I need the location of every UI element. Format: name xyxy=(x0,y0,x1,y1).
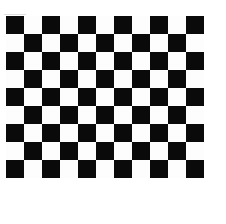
checker-cell-r4-c4 xyxy=(78,88,96,106)
checker-cell-r2-c2 xyxy=(42,52,60,70)
checker-cell-r3-c2 xyxy=(42,70,60,88)
checker-cell-r5-c1 xyxy=(24,106,42,124)
checker-cell-r0-c2 xyxy=(42,16,60,34)
checker-cell-r6-c7 xyxy=(132,124,150,142)
checker-cell-r2-c4 xyxy=(78,52,96,70)
checker-cell-r3-c7 xyxy=(132,70,150,88)
checker-cell-r6-c1 xyxy=(24,124,42,142)
checker-cell-r0-c6 xyxy=(114,16,132,34)
checker-cell-r8-c5 xyxy=(96,160,114,178)
checker-cell-r1-c9 xyxy=(168,34,186,52)
checker-cell-r7-c7 xyxy=(132,142,150,160)
checker-cell-r2-c10 xyxy=(186,52,204,70)
checker-cell-r4-c0 xyxy=(6,88,24,106)
checker-cell-r0-c1 xyxy=(24,16,42,34)
checker-cell-r5-c3 xyxy=(60,106,78,124)
checker-cell-r3-c10 xyxy=(186,70,204,88)
checker-cell-r2-c3 xyxy=(60,52,78,70)
checker-cell-r7-c8 xyxy=(150,142,168,160)
checker-cell-r2-c8 xyxy=(150,52,168,70)
checker-cell-r0-c3 xyxy=(60,16,78,34)
checker-cell-r3-c5 xyxy=(96,70,114,88)
checker-cell-r8-c1 xyxy=(24,160,42,178)
checker-cell-r4-c1 xyxy=(24,88,42,106)
checker-cell-r6-c4 xyxy=(78,124,96,142)
checker-cell-r5-c4 xyxy=(78,106,96,124)
checker-cell-r4-c6 xyxy=(114,88,132,106)
checker-cell-r6-c2 xyxy=(42,124,60,142)
checker-cell-r5-c7 xyxy=(132,106,150,124)
checker-cell-r8-c9 xyxy=(168,160,186,178)
checker-cell-r1-c8 xyxy=(150,34,168,52)
checker-cell-r5-c0 xyxy=(6,106,24,124)
checker-cell-r6-c8 xyxy=(150,124,168,142)
caption-clip-region xyxy=(0,214,226,224)
checker-cell-r2-c0 xyxy=(6,52,24,70)
checker-cell-r4-c8 xyxy=(150,88,168,106)
checker-cell-r5-c8 xyxy=(150,106,168,124)
checker-cell-r4-c2 xyxy=(42,88,60,106)
checker-cell-r6-c6 xyxy=(114,124,132,142)
checker-cell-r2-c7 xyxy=(132,52,150,70)
checker-cell-r5-c2 xyxy=(42,106,60,124)
checker-cell-r8-c10 xyxy=(186,160,204,178)
checker-cell-r1-c1 xyxy=(24,34,42,52)
checker-cell-r3-c1 xyxy=(24,70,42,88)
checker-cell-r1-c2 xyxy=(42,34,60,52)
checker-cell-r2-c6 xyxy=(114,52,132,70)
figure-root xyxy=(0,0,226,224)
checker-cell-r7-c9 xyxy=(168,142,186,160)
checker-cell-r4-c5 xyxy=(96,88,114,106)
checker-cell-r0-c10 xyxy=(186,16,204,34)
checker-cell-r7-c1 xyxy=(24,142,42,160)
checker-cell-r0-c7 xyxy=(132,16,150,34)
checker-cell-r7-c10 xyxy=(186,142,204,160)
checker-cell-r2-c5 xyxy=(96,52,114,70)
checker-cell-r6-c0 xyxy=(6,124,24,142)
checker-cell-r7-c5 xyxy=(96,142,114,160)
checker-cell-r3-c9 xyxy=(168,70,186,88)
checker-cell-r8-c4 xyxy=(78,160,96,178)
checker-cell-r8-c3 xyxy=(60,160,78,178)
checker-cell-r4-c3 xyxy=(60,88,78,106)
checker-cell-r1-c0 xyxy=(6,34,24,52)
checker-cell-r1-c6 xyxy=(114,34,132,52)
checker-cell-r8-c0 xyxy=(6,160,24,178)
checker-cell-r3-c6 xyxy=(114,70,132,88)
checker-cell-r3-c8 xyxy=(150,70,168,88)
checker-cell-r0-c8 xyxy=(150,16,168,34)
scan-artifact-line xyxy=(4,14,26,15)
checker-cell-r0-c9 xyxy=(168,16,186,34)
checker-cell-r4-c7 xyxy=(132,88,150,106)
checker-cell-r7-c4 xyxy=(78,142,96,160)
checker-cell-r7-c3 xyxy=(60,142,78,160)
checker-cell-r5-c6 xyxy=(114,106,132,124)
checker-cell-r0-c4 xyxy=(78,16,96,34)
checker-cell-r2-c9 xyxy=(168,52,186,70)
checker-cell-r3-c0 xyxy=(6,70,24,88)
checker-cell-r6-c3 xyxy=(60,124,78,142)
checker-cell-r4-c10 xyxy=(186,88,204,106)
checker-cell-r1-c5 xyxy=(96,34,114,52)
checker-cell-r8-c8 xyxy=(150,160,168,178)
checker-cell-r5-c5 xyxy=(96,106,114,124)
checker-cell-r1-c10 xyxy=(186,34,204,52)
checker-cell-r7-c2 xyxy=(42,142,60,160)
checker-cell-r6-c10 xyxy=(186,124,204,142)
checker-cell-r6-c9 xyxy=(168,124,186,142)
checker-cell-r8-c2 xyxy=(42,160,60,178)
checker-cell-r2-c1 xyxy=(24,52,42,70)
checker-cell-r7-c6 xyxy=(114,142,132,160)
checker-cell-r0-c5 xyxy=(96,16,114,34)
checker-cell-r1-c3 xyxy=(60,34,78,52)
checker-cell-r4-c9 xyxy=(168,88,186,106)
checker-cell-r5-c9 xyxy=(168,106,186,124)
checker-cell-r3-c4 xyxy=(78,70,96,88)
checker-cell-r8-c7 xyxy=(132,160,150,178)
checker-cell-r8-c6 xyxy=(114,160,132,178)
checkerboard-grid xyxy=(6,16,204,178)
checker-cell-r1-c7 xyxy=(132,34,150,52)
checker-cell-r3-c3 xyxy=(60,70,78,88)
checker-cell-r0-c0 xyxy=(6,16,24,34)
checker-cell-r6-c5 xyxy=(96,124,114,142)
